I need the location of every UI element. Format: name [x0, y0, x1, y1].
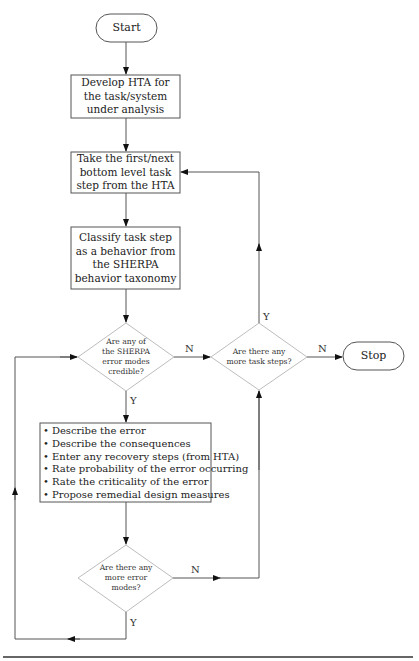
describe-item: Propose remedial design measures — [43, 489, 213, 502]
edge-label-more-errors-no: N — [191, 564, 200, 575]
edge-label-more-steps-yes: Y — [263, 311, 270, 322]
stop-label: Stop — [343, 342, 404, 370]
line-more-errors-no-route — [218, 391, 259, 578]
classify-label: Classify task step as a behavior from th… — [74, 227, 177, 289]
edge-label-credible-no: N — [185, 343, 194, 354]
more-errors-label: Are there any more error modes? — [92, 566, 160, 590]
describe-item: Rate probability of the error occurring — [43, 463, 213, 476]
edge-label-more-errors-yes: Y — [130, 617, 137, 628]
describe-item: Enter any recovery steps (from HTA) — [43, 451, 213, 464]
arrow-more-steps-yes — [181, 172, 259, 323]
describe-list: Describe the error Describe the conseque… — [43, 425, 213, 502]
develop-hta-label: Develop HTA for the task/system under an… — [74, 75, 177, 118]
start-label: Start — [96, 14, 157, 42]
edge-label-more-steps-no: N — [318, 343, 327, 354]
take-step-label: Take the first/next bottom level task st… — [73, 152, 178, 193]
describe-item: Describe the consequences — [43, 438, 213, 451]
edge-label-credible-yes: Y — [130, 395, 137, 406]
credible-label: Are any of the SHERPA error modes credib… — [100, 340, 152, 374]
flowchart-canvas — [0, 0, 419, 661]
describe-item: Describe the error — [43, 425, 213, 438]
more-steps-label: Are there any more task steps? — [222, 345, 296, 369]
describe-item: Rate the criticality of the error — [43, 476, 213, 489]
bottom-rule — [3, 656, 413, 658]
